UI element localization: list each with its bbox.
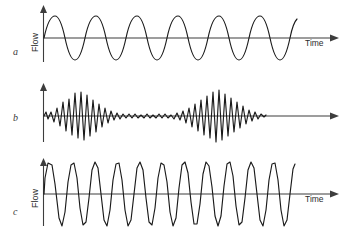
panel-a-xlabel: Time — [305, 38, 324, 48]
panel-letter-b: b — [13, 112, 18, 123]
panel-b: Flow Time — [0, 78, 342, 156]
panel-a-time-axis — [43, 35, 339, 42]
panel-a-ylabel: Flow — [30, 33, 40, 52]
panel-c: Flow Time — [0, 156, 342, 233]
panel-a-flow-axis — [40, 5, 47, 62]
panel-letter-c: c — [13, 206, 17, 217]
panel-a: Flow Time — [0, 0, 342, 78]
panel-a-plot — [0, 0, 342, 78]
panel-letter-a: a — [13, 46, 18, 57]
panel-c-flow-axis — [40, 158, 47, 226]
panel-c-plot — [0, 156, 342, 233]
panel-b-plot — [0, 78, 342, 156]
waveform-figure: Flow Time Flow Time — [0, 0, 342, 233]
